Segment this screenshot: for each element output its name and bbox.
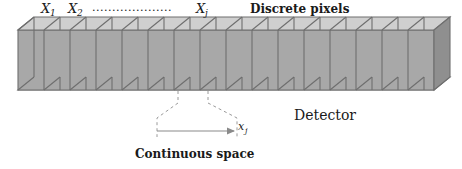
figure-container: X 1 X 2 .................... X j Discret… xyxy=(0,0,462,169)
projection-guides xyxy=(157,91,237,137)
label-x2-subscript: 2 xyxy=(76,8,83,18)
box-right-cap xyxy=(434,17,450,90)
label-discrete-pixels: Discrete pixels xyxy=(250,2,350,16)
guide-left xyxy=(157,91,178,137)
pixel-labels-group: X 1 X 2 .................... X j Discret… xyxy=(40,1,350,18)
label-xj-axis: x xyxy=(238,120,245,133)
label-x1-subscript: 1 xyxy=(50,8,56,18)
label-detector: Detector xyxy=(294,107,356,123)
guide-right xyxy=(208,91,237,137)
detector-box xyxy=(18,17,450,90)
detector-diagram-svg: X 1 X 2 .................... X j Discret… xyxy=(0,0,462,169)
continuous-space-measure: x j xyxy=(157,120,248,135)
label-ellipsis: .................... xyxy=(92,1,172,14)
label-continuous-space: Continuous space xyxy=(135,147,255,161)
